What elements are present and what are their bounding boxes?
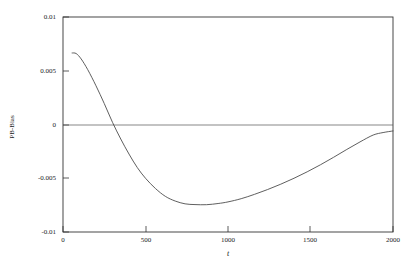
xtick-label-3: 1500	[303, 237, 317, 244]
plot-frame	[63, 17, 393, 232]
xtick-label-2: 1000	[221, 237, 235, 244]
ytick-label-3: -0.005	[12, 175, 56, 182]
ytick-label-0: 0.01	[12, 14, 56, 21]
xtick-label-1: 500	[141, 237, 152, 244]
ytick-label-4: -0.01	[12, 229, 56, 236]
ytick-label-2: 0	[12, 122, 56, 129]
plot-canvas	[0, 0, 410, 267]
x-axis-label: t	[227, 250, 229, 258]
y-axis-label: PB-Bias	[9, 115, 16, 138]
xtick-label-4: 2000	[386, 237, 400, 244]
xtick-label-0: 0	[61, 237, 65, 244]
chart-figure: 0.01 0.005 0 -0.005 -0.01 0 500 1000 150…	[0, 0, 410, 267]
ytick-label-1: 0.005	[12, 68, 56, 75]
